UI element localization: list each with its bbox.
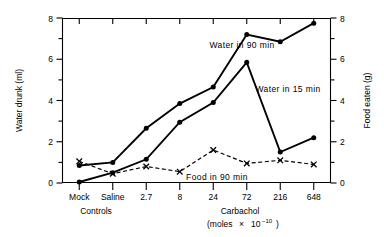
x-group-label-carbachol: Carbachol [221,206,260,216]
y-axis-right-major-ticks [331,18,337,183]
data-point-cross [210,147,216,153]
x-axis-bottom-ticks [79,183,314,190]
line-chart: 0 2 4 6 8 0 2 4 6 8 Mock Saline 2.7 8 24… [0,0,384,237]
data-point [278,39,283,44]
units-base: 10 [251,219,261,229]
y-tick-label-right: 2 [340,137,345,147]
units-prefix: (moles [207,219,233,229]
x-tick-label-saline: Saline [101,192,125,202]
x-tick-label-648: 648 [307,192,321,202]
x-group-label-controls: Controls [80,206,112,216]
annotation-food-90-min: Food in 90 min [186,172,248,182]
data-point [177,120,182,125]
data-point [211,85,216,90]
data-point [211,100,216,105]
y-tick-label: 2 [48,137,53,147]
y-tick-label: 8 [48,14,53,24]
water-90-line [79,23,314,165]
data-point [244,60,249,65]
series-water-in-15-min [77,60,317,185]
x-tick-label-8: 8 [177,192,182,202]
units-suffix: ) [276,219,279,229]
data-point [278,150,283,155]
data-point [311,21,316,26]
water-15-markers [77,60,317,185]
y-axis-right-tick-labels: 0 2 4 6 8 [340,14,345,189]
annotation-water-90-min: Water in 90 min [209,40,274,50]
y-tick-label: 0 [48,178,53,188]
annotation-water-15-min: Water in 15 min [255,84,320,94]
data-point [144,157,149,162]
data-point [177,101,182,106]
data-point [110,160,115,165]
data-point [244,32,249,37]
y-tick-label-right: 4 [340,96,345,106]
data-point [311,135,316,140]
y-axis-left-title: Water drunk (ml) [14,69,24,132]
x-tick-label-mock: Mock [69,192,90,202]
y-axis-left-major-ticks [57,18,63,183]
data-point [110,170,115,175]
units-exponent: −10 [262,218,273,224]
y-tick-label: 4 [48,96,53,106]
multiply-icon: × [239,219,244,229]
x-axis-units: (moles × 10 −10 ) [207,218,279,229]
x-tick-label-72: 72 [242,192,252,202]
data-point [77,179,82,184]
y-tick-label: 6 [48,54,53,64]
series-water-in-90-min [77,21,317,168]
x-tick-label-216: 216 [273,192,287,202]
y-tick-label-right: 6 [340,54,345,64]
y-axis-right-title: Food eaten (g) [362,72,372,128]
data-point [77,163,82,168]
data-point [144,126,149,131]
y-tick-label-right: 0 [340,178,345,188]
x-axis-category-labels: Mock Saline 2.7 8 24 72 216 648 [69,192,321,202]
chart-figure: 0 2 4 6 8 0 2 4 6 8 Mock Saline 2.7 8 24… [0,0,384,237]
x-tick-label-24: 24 [209,192,219,202]
y-tick-label-right: 8 [340,14,345,24]
x-tick-label-2-7: 2.7 [140,192,152,202]
plot-frame [63,18,331,183]
y-axis-left-tick-labels: 0 2 4 6 8 [48,14,53,189]
